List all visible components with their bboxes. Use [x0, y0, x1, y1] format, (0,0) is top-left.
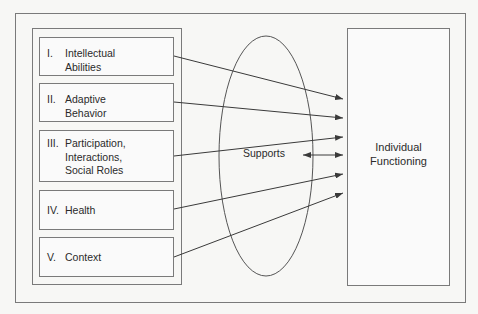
arrow-intellectual: [174, 56, 343, 99]
supports-label: Supports: [243, 147, 285, 159]
arrow-context: [174, 193, 343, 257]
arrow-health: [174, 174, 343, 209]
connector-overlay: [0, 0, 478, 314]
arrow-adaptive: [174, 102, 343, 118]
